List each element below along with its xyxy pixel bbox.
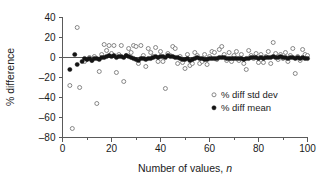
data-point	[185, 53, 189, 57]
data-point	[269, 62, 273, 66]
axes-layer	[59, 18, 308, 142]
data-point	[159, 50, 163, 54]
data-point	[68, 84, 72, 88]
x-axis-tick-label: 0	[60, 143, 66, 154]
x-axis-tick-label: 100	[299, 143, 316, 154]
data-point	[154, 46, 158, 50]
data-point	[161, 60, 165, 64]
x-axis-tick-label: 20	[106, 143, 118, 154]
y-axis-title: % difference	[4, 48, 16, 106]
data-point	[112, 44, 116, 48]
data-point	[261, 61, 265, 65]
data-point	[234, 50, 238, 54]
data-point	[212, 51, 216, 55]
data-point	[75, 26, 79, 30]
data-point	[203, 53, 207, 57]
data-point	[205, 63, 209, 67]
data-point	[239, 53, 243, 57]
data-point	[97, 70, 101, 74]
data-point	[146, 47, 150, 51]
y-axis-tick-label: –20	[39, 72, 56, 83]
data-point	[95, 102, 99, 106]
legend-label: % diff std dev	[221, 89, 278, 100]
data-point	[301, 48, 305, 52]
series-std-dev	[68, 26, 310, 131]
data-point	[163, 87, 167, 91]
chart-figure: 40200–20–40–60–80020406080100% differenc…	[0, 0, 326, 183]
legend-marker	[212, 106, 216, 110]
y-axis-tick-label: –40	[39, 92, 56, 103]
x-axis-tick-label: 80	[253, 143, 265, 154]
data-point	[227, 51, 231, 55]
data-point	[139, 44, 143, 48]
data-point	[183, 67, 187, 71]
data-point	[144, 65, 148, 69]
data-point	[73, 52, 77, 56]
data-point	[149, 51, 153, 55]
y-axis-tick-label: –60	[39, 112, 56, 123]
data-points-layer	[68, 26, 310, 131]
data-point	[122, 80, 126, 84]
data-point	[114, 71, 118, 75]
data-point	[271, 41, 275, 45]
data-point	[283, 51, 287, 55]
data-point	[293, 72, 297, 76]
data-point	[127, 47, 131, 51]
data-point	[242, 62, 246, 66]
scatter-plot: 40200–20–40–60–80020406080100% differenc…	[0, 0, 326, 183]
data-point	[220, 45, 224, 49]
data-point	[266, 50, 270, 54]
data-point	[129, 51, 133, 55]
data-point	[70, 127, 74, 131]
data-point	[107, 44, 111, 48]
data-point	[102, 43, 106, 47]
data-point	[305, 56, 309, 60]
data-point	[254, 52, 258, 56]
data-point	[244, 68, 248, 72]
data-point	[247, 49, 251, 53]
x-axis-title: Number of values, n	[138, 162, 232, 174]
data-point	[78, 86, 82, 90]
data-point	[257, 61, 261, 65]
x-axis-tick-label: 40	[155, 143, 167, 154]
chart-legend: % diff std dev% diff mean	[212, 89, 278, 113]
data-point	[291, 47, 295, 51]
data-point	[75, 62, 79, 66]
x-axis-tick-label: 60	[204, 143, 216, 154]
y-axis-tick-label: 0	[50, 52, 56, 63]
data-point	[134, 45, 138, 49]
data-point	[156, 60, 160, 64]
data-point	[119, 44, 123, 48]
data-point	[173, 47, 177, 51]
y-axis-tick-label: –80	[39, 132, 56, 143]
legend-label: % diff mean	[221, 102, 271, 113]
y-axis-tick-label: 40	[44, 12, 56, 23]
legend-marker	[212, 93, 216, 97]
data-point	[68, 67, 72, 71]
data-point	[176, 62, 180, 66]
data-point	[105, 49, 109, 53]
y-axis-tick-label: 20	[44, 32, 56, 43]
